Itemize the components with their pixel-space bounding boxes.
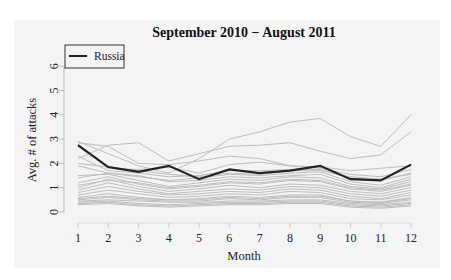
x-tick-label: 2 bbox=[105, 231, 111, 245]
x-tick-label: 3 bbox=[136, 231, 142, 245]
y-tick-label: 1 bbox=[47, 185, 61, 191]
y-tick-label: 4 bbox=[47, 112, 61, 118]
x-tick-label: 8 bbox=[287, 231, 293, 245]
legend: Russia bbox=[65, 45, 125, 68]
y-tick-label: 5 bbox=[47, 88, 61, 94]
y-tick-label: 3 bbox=[47, 136, 61, 142]
country-line bbox=[78, 143, 411, 171]
country-line bbox=[78, 179, 411, 190]
x-tick-label: 7 bbox=[257, 231, 263, 245]
x-tick-label: 5 bbox=[196, 231, 202, 245]
y-tick-label: 2 bbox=[47, 160, 61, 166]
chart-title: September 2010 − August 2011 bbox=[152, 25, 336, 40]
background-series bbox=[78, 115, 411, 209]
y-axis: 0123456 bbox=[47, 63, 64, 215]
x-tick-label: 6 bbox=[226, 231, 232, 245]
country-line bbox=[78, 132, 411, 161]
x-tick-label: 4 bbox=[166, 231, 172, 245]
legend-label-russia: Russia bbox=[94, 50, 125, 62]
y-axis-label: Avg. # of attacks bbox=[25, 98, 39, 183]
x-tick-label: 10 bbox=[344, 231, 356, 245]
x-tick-label: 12 bbox=[405, 231, 417, 245]
x-tick-label: 11 bbox=[375, 231, 387, 245]
line-chart: September 2010 − August 2011 0123456 123… bbox=[14, 20, 440, 268]
x-tick-label: 1 bbox=[75, 231, 81, 245]
country-line bbox=[78, 156, 411, 180]
y-tick-label: 0 bbox=[47, 209, 61, 215]
chart-panel: September 2010 − August 2011 0123456 123… bbox=[14, 20, 440, 268]
x-tick-label: 9 bbox=[317, 231, 323, 245]
y-tick-label: 6 bbox=[47, 63, 61, 69]
x-axis: 123456789101112 bbox=[75, 223, 417, 245]
x-axis-label: Month bbox=[227, 249, 261, 263]
